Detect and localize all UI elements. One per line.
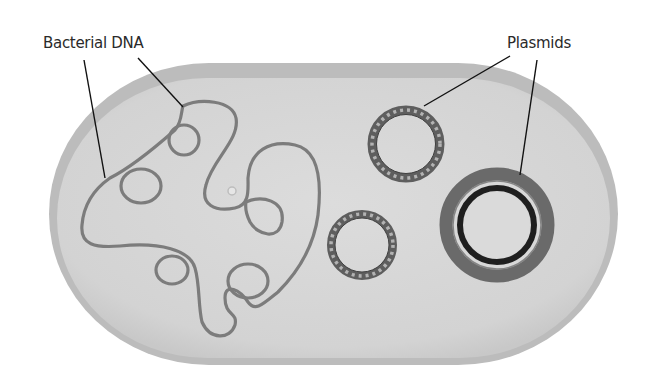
diagram-graphic [0, 0, 649, 384]
bacterial-cell-diagram: Bacterial DNA Plasmids [0, 0, 649, 384]
plasmid-large [446, 174, 548, 276]
label-bacterial-dna: Bacterial DNA [43, 34, 143, 52]
label-plasmids: Plasmids [507, 34, 571, 52]
